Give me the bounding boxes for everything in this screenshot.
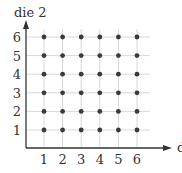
y-tick-labels: 123456 <box>13 30 21 138</box>
outcome-point <box>60 109 65 114</box>
outcome-point <box>116 72 121 77</box>
outcome-point <box>42 109 47 114</box>
x-tick-label: 1 <box>40 152 48 167</box>
outcome-point <box>135 35 140 40</box>
outcome-point <box>135 128 140 133</box>
outcome-point <box>60 72 65 77</box>
outcome-point <box>97 109 102 114</box>
outcome-point <box>79 72 84 77</box>
outcome-point <box>42 90 47 95</box>
outcome-point <box>116 53 121 58</box>
outcome-point <box>42 53 47 58</box>
y-axis-arrow-icon <box>23 20 29 29</box>
x-tick-label: 5 <box>114 152 122 167</box>
outcome-point <box>97 72 102 77</box>
outcome-point <box>116 109 121 114</box>
outcome-point <box>135 90 140 95</box>
outcome-point <box>97 35 102 40</box>
x-tick-label: 4 <box>96 152 104 167</box>
x-tick-label: 6 <box>133 152 141 167</box>
outcome-point <box>42 72 47 77</box>
x-tick-label: 3 <box>77 152 85 167</box>
outcome-point <box>135 109 140 114</box>
outcome-point <box>116 90 121 95</box>
y-tick-label: 4 <box>13 67 21 82</box>
x-axis-label: die 1 <box>177 140 182 155</box>
outcome-point <box>60 35 65 40</box>
y-tick-label: 5 <box>13 49 21 64</box>
outcome-points <box>42 35 140 133</box>
outcome-point <box>60 90 65 95</box>
outcome-point <box>42 128 47 133</box>
outcome-point <box>79 109 84 114</box>
outcome-point <box>60 128 65 133</box>
outcome-point <box>60 53 65 58</box>
x-axis-arrow-icon <box>163 145 172 151</box>
outcome-point <box>79 53 84 58</box>
outcome-point <box>79 128 84 133</box>
outcome-point <box>97 53 102 58</box>
y-tick-label: 6 <box>13 30 21 45</box>
outcome-point <box>79 90 84 95</box>
x-tick-labels: 123456 <box>40 152 141 167</box>
y-tick-label: 2 <box>13 104 21 119</box>
outcome-point <box>97 128 102 133</box>
outcome-point <box>97 90 102 95</box>
x-tick-label: 2 <box>58 152 66 167</box>
outcome-point <box>116 35 121 40</box>
outcome-point <box>116 128 121 133</box>
y-axis-label: die 2 <box>14 5 47 20</box>
outcome-point <box>135 72 140 77</box>
sample-space-diagram: 123456 123456 die 1 die 2 <box>0 0 182 173</box>
outcome-point <box>79 35 84 40</box>
outcome-point <box>42 35 47 40</box>
outcome-point <box>135 53 140 58</box>
y-tick-label: 1 <box>13 123 21 138</box>
y-tick-label: 3 <box>13 86 21 101</box>
